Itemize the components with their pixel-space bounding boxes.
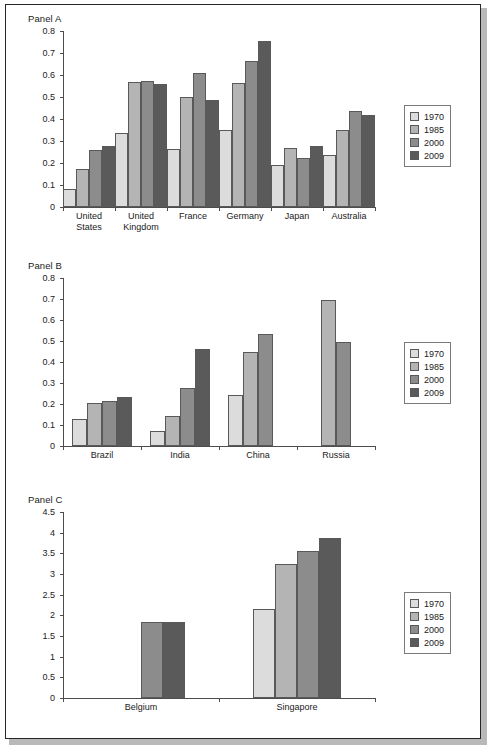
- y-tick-mark: [60, 299, 63, 300]
- category-label: Australia: [331, 211, 366, 222]
- y-tick-label: 0.4: [15, 357, 55, 367]
- y-tick-mark: [60, 677, 63, 678]
- y-tick-mark: [60, 383, 63, 384]
- bar: [297, 158, 310, 207]
- legend-item[interactable]: 2000: [410, 136, 444, 149]
- y-tick-mark: [60, 615, 63, 616]
- legend-label: 1970: [424, 349, 444, 359]
- x-tick-mark: [297, 446, 298, 450]
- legend-item[interactable]: 1985: [410, 123, 444, 136]
- y-tick-mark: [60, 31, 63, 32]
- y-tick-mark: [60, 553, 63, 554]
- legend-item[interactable]: 2000: [410, 373, 444, 386]
- bar: [167, 149, 180, 207]
- y-tick-label: 0.5: [15, 336, 55, 346]
- legend-item[interactable]: 1970: [410, 597, 444, 610]
- y-tick-label: 0.1: [15, 180, 55, 190]
- x-tick-mark: [219, 207, 220, 211]
- y-tick-label: 0: [15, 202, 55, 212]
- legend-label: 1970: [424, 112, 444, 122]
- legend-swatch-icon: [410, 151, 419, 160]
- bar: [115, 133, 128, 207]
- y-tick-label: 0.5: [15, 672, 55, 682]
- category-label: UnitedStates: [76, 211, 102, 233]
- bar: [258, 41, 271, 207]
- legend-item[interactable]: 2000: [410, 623, 444, 636]
- legend-label: 1985: [424, 362, 444, 372]
- legend-item[interactable]: 1970: [410, 110, 444, 123]
- y-tick-mark: [60, 97, 63, 98]
- bar: [117, 397, 132, 446]
- y-tick-mark: [60, 657, 63, 658]
- bar: [253, 609, 275, 698]
- bar: [128, 82, 141, 207]
- x-tick-mark: [167, 207, 168, 211]
- y-tick-mark: [60, 278, 63, 279]
- x-tick-mark: [219, 446, 220, 450]
- y-tick-label: 3: [15, 569, 55, 579]
- y-tick-label: 0.8: [15, 26, 55, 36]
- y-tick-mark: [60, 141, 63, 142]
- bar: [195, 349, 210, 446]
- x-tick-mark: [219, 698, 220, 702]
- category-label: Germany: [226, 211, 263, 222]
- legend-label: 1985: [424, 125, 444, 135]
- legend-label: 1970: [424, 599, 444, 609]
- legend-item[interactable]: 2009: [410, 386, 444, 399]
- legend-item[interactable]: 1970: [410, 347, 444, 360]
- x-tick-mark: [271, 207, 272, 211]
- bar: [297, 551, 319, 698]
- y-tick-mark: [60, 636, 63, 637]
- x-tick-mark: [63, 207, 64, 211]
- legend-label: 1985: [424, 612, 444, 622]
- bar: [180, 97, 193, 207]
- y-tick-label: 0: [15, 441, 55, 451]
- y-tick-label: 4: [15, 528, 55, 538]
- y-tick-mark: [60, 512, 63, 513]
- legend-item[interactable]: 2009: [410, 636, 444, 649]
- bar: [243, 352, 258, 447]
- legend-label: 2000: [424, 625, 444, 635]
- x-tick-mark: [375, 446, 376, 450]
- legend: 1970198520002009: [404, 592, 451, 654]
- category-label: Belgium: [125, 702, 158, 713]
- bar: [180, 388, 195, 446]
- y-tick-mark: [60, 75, 63, 76]
- bar: [336, 130, 349, 207]
- bar: [87, 403, 102, 446]
- bar: [163, 622, 185, 698]
- legend-swatch-icon: [410, 138, 419, 147]
- legend-swatch-icon: [410, 599, 419, 608]
- legend-label: 2009: [424, 388, 444, 398]
- x-tick-mark: [141, 446, 142, 450]
- y-tick-label: 0.7: [15, 294, 55, 304]
- legend-swatch-icon: [410, 388, 419, 397]
- bar: [319, 538, 341, 698]
- y-axis-line: [63, 278, 64, 446]
- legend-swatch-icon: [410, 625, 419, 634]
- legend-item[interactable]: 2009: [410, 149, 444, 162]
- bar: [219, 130, 232, 207]
- x-tick-mark: [63, 446, 64, 450]
- category-label: Brazil: [91, 450, 114, 461]
- category-label: China: [246, 450, 270, 461]
- legend-item[interactable]: 1985: [410, 610, 444, 623]
- category-label: Russia: [322, 450, 350, 461]
- plot-area: 00.10.20.30.40.50.60.70.8: [63, 278, 375, 446]
- legend-item[interactable]: 1985: [410, 360, 444, 373]
- panel-a: Panel A00.10.20.30.40.50.60.70.8UnitedSt…: [6, 5, 480, 250]
- bar: [245, 61, 258, 207]
- bar: [228, 395, 243, 446]
- y-tick-label: 3.5: [15, 548, 55, 558]
- y-tick-mark: [60, 341, 63, 342]
- y-tick-label: 4.5: [15, 507, 55, 517]
- bar: [258, 334, 273, 446]
- bar: [165, 416, 180, 446]
- y-tick-mark: [60, 595, 63, 596]
- bar: [275, 564, 297, 698]
- plot-area: 00.511.522.533.544.5: [63, 512, 375, 698]
- legend-swatch-icon: [410, 362, 419, 371]
- legend: 1970198520002009: [404, 105, 451, 167]
- bar: [206, 100, 219, 207]
- category-label: India: [170, 450, 190, 461]
